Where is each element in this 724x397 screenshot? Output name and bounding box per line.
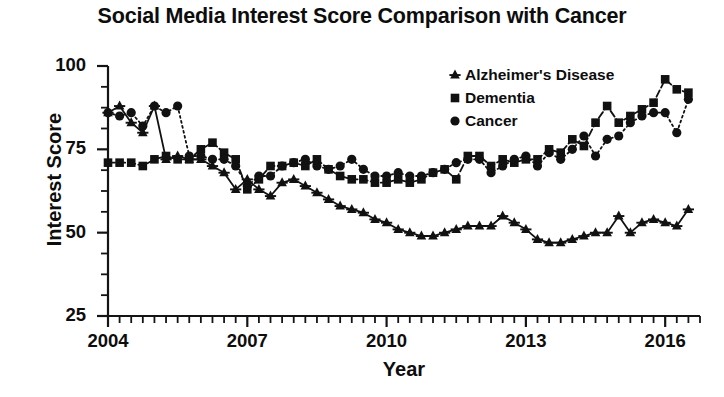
legend-item: Cancer	[447, 110, 614, 131]
data-point-marker	[417, 171, 426, 180]
y-axis-title: Interest Score	[43, 60, 66, 300]
data-point-marker	[462, 221, 473, 230]
data-point-marker	[311, 187, 322, 196]
x-axis-title: Year	[108, 358, 700, 381]
data-point-marker	[404, 227, 415, 236]
data-point-marker	[450, 116, 459, 125]
x-tick-label: 2013	[491, 330, 561, 352]
data-point-marker	[266, 162, 275, 171]
data-point-marker	[185, 151, 194, 160]
x-tick-label: 2010	[352, 330, 422, 352]
data-point-marker	[347, 175, 356, 184]
x-tick-label: 2007	[212, 330, 282, 352]
data-point-marker	[590, 227, 601, 236]
data-point-marker	[614, 118, 623, 127]
y-tick-label: 75	[30, 137, 86, 159]
data-point-marker	[649, 108, 658, 117]
legend-label: Alzheimer's Disease	[465, 67, 614, 83]
data-point-marker	[138, 121, 147, 130]
data-point-marker	[637, 111, 646, 120]
data-point-marker	[405, 171, 414, 180]
data-point-marker	[288, 174, 299, 183]
legend-item: Dementia	[447, 87, 614, 108]
chart-legend: Alzheimer's DiseaseDementiaCancer	[447, 64, 614, 133]
y-tick-label: 25	[30, 304, 86, 326]
legend-marker-icon	[447, 113, 463, 129]
data-point-marker	[126, 117, 137, 126]
data-point-marker	[498, 161, 507, 170]
data-point-marker	[196, 151, 205, 160]
data-point-marker	[475, 155, 484, 164]
data-point-marker	[428, 168, 437, 177]
data-point-marker	[439, 227, 450, 236]
data-point-marker	[416, 231, 427, 240]
data-point-marker	[661, 75, 670, 84]
data-point-marker	[369, 214, 380, 223]
data-point-marker	[219, 155, 228, 164]
data-point-marker	[382, 171, 391, 180]
data-point-marker	[510, 155, 519, 164]
data-point-marker	[150, 101, 159, 110]
data-point-marker	[150, 155, 159, 164]
data-point-marker	[449, 69, 460, 78]
data-point-marker	[451, 224, 462, 233]
data-point-marker	[289, 158, 298, 167]
data-point-marker	[393, 224, 404, 233]
data-point-marker	[254, 171, 263, 180]
data-point-marker	[335, 201, 346, 210]
data-point-marker	[231, 161, 240, 170]
data-point-marker	[544, 148, 553, 157]
data-point-marker	[452, 158, 461, 167]
data-point-marker	[323, 194, 334, 203]
data-point-marker	[672, 128, 681, 137]
data-point-marker	[394, 168, 403, 177]
data-point-marker	[346, 204, 357, 213]
x-tick-label: 2016	[630, 330, 700, 352]
data-point-marker	[358, 207, 369, 216]
legend-marker-icon	[447, 67, 463, 83]
data-point-marker	[626, 118, 635, 127]
data-point-marker	[556, 155, 565, 164]
data-point-marker	[521, 151, 530, 160]
y-tick-label: 100	[30, 54, 86, 76]
data-point-marker	[336, 172, 345, 181]
data-point-marker	[543, 237, 554, 246]
data-point-marker	[568, 145, 577, 154]
legend-item: Alzheimer's Disease	[447, 64, 614, 85]
legend-marker-icon	[447, 90, 463, 106]
data-point-marker	[486, 168, 495, 177]
data-point-marker	[336, 161, 345, 170]
data-point-marker	[347, 155, 356, 164]
data-point-marker	[567, 234, 578, 243]
data-point-marker	[103, 108, 112, 117]
data-point-marker	[115, 111, 124, 120]
data-point-marker	[591, 151, 600, 160]
data-point-marker	[509, 217, 520, 226]
data-point-marker	[114, 101, 125, 110]
data-point-marker	[614, 131, 623, 140]
data-point-marker	[173, 101, 182, 110]
data-point-marker	[649, 98, 658, 107]
data-point-marker	[613, 211, 624, 220]
data-point-marker	[451, 93, 460, 102]
data-point-marker	[370, 171, 379, 180]
data-point-marker	[683, 204, 694, 213]
data-point-marker	[208, 155, 217, 164]
data-point-marker	[427, 231, 438, 240]
data-point-marker	[266, 171, 275, 180]
data-point-marker	[671, 221, 682, 230]
data-point-marker	[555, 237, 566, 246]
data-point-marker	[684, 95, 693, 104]
data-point-marker	[359, 175, 368, 184]
data-point-marker	[463, 155, 472, 164]
data-point-marker	[161, 108, 170, 117]
data-point-marker	[660, 217, 671, 226]
data-point-marker	[139, 162, 148, 171]
x-tick-label: 2004	[73, 330, 143, 352]
data-point-marker	[173, 155, 182, 164]
data-point-marker	[497, 211, 508, 220]
data-point-marker	[578, 231, 589, 240]
data-point-marker	[218, 167, 229, 176]
y-tick-label: 50	[30, 221, 86, 243]
data-point-marker	[359, 165, 368, 174]
